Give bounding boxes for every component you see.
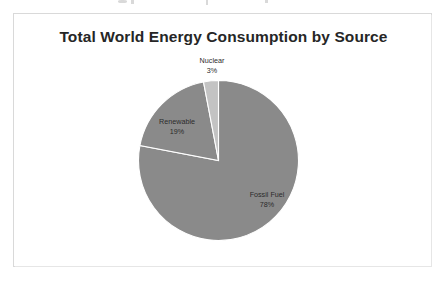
scan-speck — [131, 0, 134, 4]
pie-label-nuclear-name: Nuclear — [200, 56, 225, 65]
scan-artifacts — [0, 0, 445, 12]
pie-label-nuclear: Nuclear 3% — [182, 56, 242, 75]
scan-speck — [206, 0, 208, 5]
pie-svg — [138, 80, 299, 241]
pie-label-nuclear-percent: 3% — [182, 66, 242, 76]
plot-area: Nuclear 3% Renewable 19% Fossil Fuel 78% — [14, 14, 433, 268]
scan-speck — [265, 0, 268, 3]
pie-chart — [138, 80, 299, 241]
chart-frame: Total World Energy Consumption by Source… — [13, 13, 432, 267]
scan-speck — [118, 0, 127, 3]
